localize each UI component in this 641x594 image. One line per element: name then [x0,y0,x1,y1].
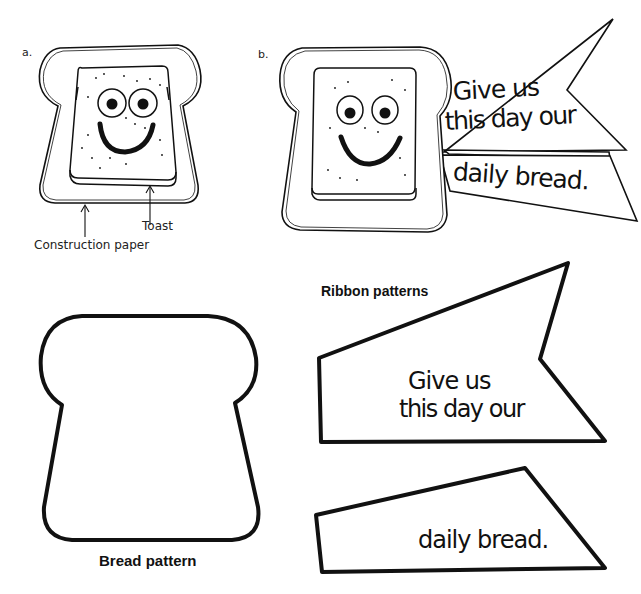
figure-a-label: a. [22,46,32,59]
callout-construction-paper: Construction paper [34,238,149,252]
ribbon-patterns-title: Ribbon patterns [321,283,428,299]
figure-b-label: b. [258,48,268,61]
figure-a-face [81,73,163,169]
ribbon-pattern-bottom-text: daily bread. [418,527,548,553]
bread-pattern-outline [41,316,259,540]
ribbon-pattern-top-line2: this day our [399,396,524,422]
ribbon-pattern-bottom-outline [316,468,605,572]
figure-b-ribbon-top-line1: Give us [452,73,540,105]
ribbon-pattern-top-line1: Give us [408,368,491,394]
callout-toast: Toast [142,219,173,233]
bread-pattern-title: Bread pattern [99,552,197,569]
figure-a-toast [70,66,176,186]
figure-b-toast [312,68,416,200]
